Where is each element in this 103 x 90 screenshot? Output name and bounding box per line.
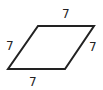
rhombus-diagram: 7 7 7 7 <box>0 0 103 90</box>
label-right-side: 7 <box>89 40 97 54</box>
rhombus-shape <box>8 26 94 69</box>
label-bottom-side: 7 <box>29 75 37 89</box>
label-left-side: 7 <box>6 39 14 53</box>
label-top-side: 7 <box>62 7 70 21</box>
